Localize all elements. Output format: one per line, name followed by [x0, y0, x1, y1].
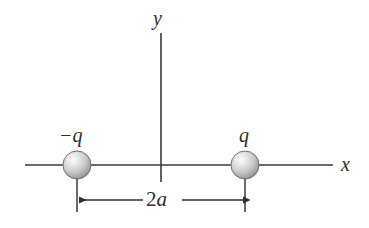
charge-sphere-negative [63, 151, 91, 179]
y-axis-label: y [153, 8, 162, 28]
physics-figure: y x −q q 2a [0, 0, 369, 228]
separation-label-variable: a [157, 187, 168, 211]
separation-label-number: 2 [146, 187, 157, 211]
x-axis-label: x [341, 154, 350, 174]
charge-sphere-positive [231, 151, 259, 179]
dipole-diagram-svg [0, 0, 369, 228]
charge-label-negative: −q [59, 125, 83, 145]
separation-label: 2a [146, 189, 167, 210]
charge-label-positive: q [239, 125, 249, 145]
